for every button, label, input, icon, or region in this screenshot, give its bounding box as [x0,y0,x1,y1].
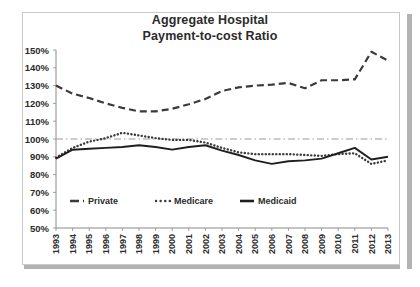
y-axis-tick-140: 140% [25,62,50,73]
chart-series [56,52,388,164]
x-axis-tick-1997: 1997 [118,234,128,254]
x-axis-tick-2003: 2003 [217,234,227,254]
legend-item-medicaid[interactable]: Medicaid [240,196,297,206]
series-line-private [56,52,388,112]
y-axis-tick-80: 80% [30,169,50,180]
legend-label: Medicaid [258,196,297,206]
x-axis-tick-2010: 2010 [333,234,343,254]
x-axis-tick-2011: 2011 [350,234,360,254]
y-axis-tick-labels: 150%140%130%120%110%100%90%80%70%60%50% [25,45,56,234]
chart-legend: PrivateMedicareMedicaid [70,196,297,206]
y-axis-tick-100: 100% [25,134,50,145]
x-axis-tick-2012: 2012 [367,234,377,254]
x-axis-tick-2007: 2007 [284,234,294,254]
x-axis-tick-1995: 1995 [84,234,94,254]
x-axis-tick-1996: 1996 [101,234,111,254]
x-axis-tick-2000: 2000 [167,234,177,254]
y-axis-tick-130: 130% [25,80,50,91]
legend-item-medicare[interactable]: Medicare [156,196,213,206]
payment-to-cost-ratio-chart: Aggregate Hospital Payment-to-cost Ratio… [0,0,420,287]
x-axis-tick-1993: 1993 [51,234,61,254]
x-axis-tick-2005: 2005 [250,234,260,254]
x-axis-tick-1999: 1999 [151,234,161,254]
y-axis-tick-150: 150% [25,45,50,56]
legend-label: Medicare [174,196,213,206]
chart-title-line2: Payment-to-cost Ratio [143,29,278,43]
y-axis-tick-50: 50% [30,223,50,234]
x-axis-tick-2006: 2006 [267,234,277,254]
x-axis-tick-2001: 2001 [184,234,194,254]
legend-label: Private [88,196,118,206]
x-axis-tick-2008: 2008 [300,234,310,254]
y-axis-tick-120: 120% [25,98,50,109]
x-axis-tick-2004: 2004 [234,234,244,254]
x-axis-tick-labels: 1993199419951996199719981999200020012002… [51,228,393,254]
chart-title: Aggregate Hospital Payment-to-cost Ratio [143,13,278,43]
chart-title-line1: Aggregate Hospital [152,13,268,27]
y-axis-tick-60: 60% [30,205,50,216]
x-axis-tick-1994: 1994 [68,234,78,254]
x-axis-tick-1998: 1998 [134,234,144,254]
x-axis-tick-2013: 2013 [383,234,393,254]
x-axis-tick-2009: 2009 [317,234,327,254]
y-axis-tick-110: 110% [25,116,49,127]
x-axis-tick-2002: 2002 [201,234,211,254]
legend-item-private[interactable]: Private [70,196,118,206]
y-axis-tick-90: 90% [30,151,50,162]
y-axis-tick-70: 70% [30,187,50,198]
chart-figure: Aggregate Hospital Payment-to-cost Ratio… [0,0,420,287]
